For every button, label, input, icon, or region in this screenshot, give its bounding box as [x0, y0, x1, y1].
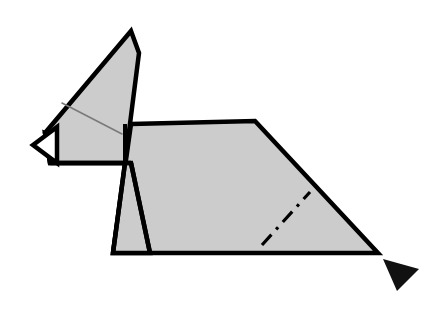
origami-canvas — [0, 0, 443, 323]
origami-diagram — [0, 0, 443, 323]
